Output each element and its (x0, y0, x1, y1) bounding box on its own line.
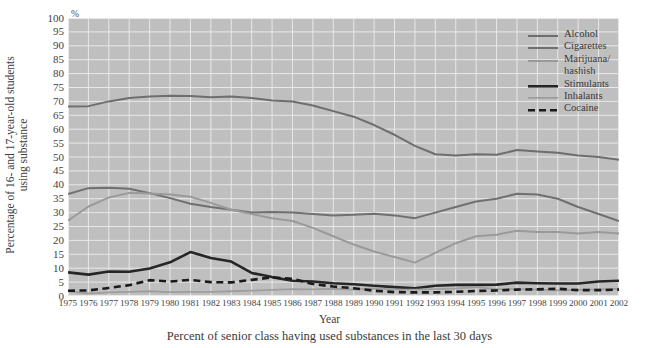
legend-item-cocaine[interactable]: Cocaine (528, 103, 656, 115)
legend-item-label: Cocaine (564, 102, 598, 114)
y-tick-label: 25 (36, 221, 64, 232)
x-tick-label: 1999 (549, 298, 567, 309)
y-tick-label: 80 (36, 68, 64, 79)
legend-item-label-line-2: hashish (564, 65, 596, 77)
y-tick-label: 30 (36, 207, 64, 218)
x-tick-label: 1985 (263, 298, 281, 309)
x-tick-label: 1978 (120, 298, 138, 309)
x-tick-label: 1997 (508, 298, 526, 309)
x-tick-label: 1975 (59, 298, 77, 309)
y-tick-label: 35 (36, 193, 64, 204)
x-tick-label: 1977 (100, 298, 118, 309)
chart-figure: Percentage of 16- and 17-year-old studen… (0, 0, 659, 348)
y-tick-label: 45 (36, 165, 64, 176)
legend-swatch-solid (528, 96, 558, 100)
y-tick-label: 50 (36, 152, 64, 163)
y-tick-label: 5 (36, 277, 64, 288)
x-tick-label: 1993 (426, 298, 444, 309)
series-line-stimulants (68, 252, 619, 288)
legend-item-label: Cigarettes (564, 40, 607, 52)
figure-caption: Percent of senior class having used subs… (0, 329, 659, 344)
y-axis-title-line-2: using substance (17, 56, 30, 253)
x-tick-label: 1994 (447, 298, 465, 309)
x-tick-label: 1981 (181, 298, 199, 309)
legend-swatch-dashed (528, 108, 558, 113)
x-tick-label: 1996 (487, 298, 505, 309)
x-tick-label: 1998 (528, 298, 546, 309)
y-tick-label: 20 (36, 235, 64, 246)
x-axis-title: Year (0, 313, 659, 325)
x-tick-label: 1986 (283, 298, 301, 309)
x-tick-label: 1987 (304, 298, 322, 309)
legend-item-label: Stimulants (564, 78, 609, 90)
x-axis-tick-labels: 1975197619771978197919801981198219831984… (68, 298, 619, 312)
series-line-marijuana-hashish (68, 193, 619, 263)
y-tick-label: 90 (36, 40, 64, 51)
x-tick-label: 1992 (406, 298, 424, 309)
legend-swatch-solid (528, 84, 558, 89)
legend-swatch-solid (528, 34, 558, 38)
y-tick-label: 65 (36, 110, 64, 121)
x-tick-label: 1991 (385, 298, 403, 309)
y-tick-label: 55 (36, 138, 64, 149)
y-tick-label: 70 (36, 96, 64, 107)
y-tick-label: 40 (36, 179, 64, 190)
x-tick-label: 1982 (202, 298, 220, 309)
x-tick-label: 1995 (467, 298, 485, 309)
y-tick-label: 100 (36, 13, 64, 24)
y-tick-label: 10 (36, 263, 64, 274)
y-tick-label: 15 (36, 249, 64, 260)
legend-swatch-solid (528, 59, 558, 63)
y-axis-title-line-1: Percentage of 16- and 17-year-old studen… (4, 56, 17, 253)
chart-legend: AlcoholCigarettesMarijuana/hashishStimul… (528, 29, 656, 116)
legend-item-label: Alcohol (564, 28, 598, 40)
y-axis-title: Percentage of 16- and 17-year-old studen… (0, 14, 34, 296)
y-tick-label: 95 (36, 26, 64, 37)
legend-swatch-solid (528, 46, 558, 50)
legend-item-label: Inhalants (564, 90, 603, 102)
x-tick-label: 1988 (324, 298, 342, 309)
y-tick-label: 85 (36, 54, 64, 65)
x-tick-label: 2002 (610, 298, 628, 309)
x-tick-label: 1980 (161, 298, 179, 309)
x-tick-label: 2001 (589, 298, 607, 309)
x-tick-label: 1989 (345, 298, 363, 309)
y-axis-tick-labels: 0510152025303540455055606570758085909510… (36, 18, 64, 296)
x-tick-label: 1976 (79, 298, 97, 309)
y-tick-label: 60 (36, 124, 64, 135)
x-tick-label: 1984 (243, 298, 261, 309)
x-tick-label: 1979 (140, 298, 158, 309)
x-tick-label: 1983 (222, 298, 240, 309)
legend-item-label: Marijuana/ (564, 53, 610, 65)
y-tick-label: 75 (36, 82, 64, 93)
x-tick-label: 2000 (569, 298, 587, 309)
x-tick-label: 1990 (365, 298, 383, 309)
